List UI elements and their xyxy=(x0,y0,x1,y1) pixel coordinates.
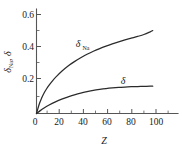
xtick-label-100: 100 xyxy=(149,117,164,127)
chart-figure: 0.6 0.4 0.2 0 20 40 60 80 100 xyxy=(0,0,182,151)
curve-label-delta-na-sub: Na xyxy=(83,45,90,51)
xtick-label-80: 80 xyxy=(126,117,136,127)
y-axis-title-second: , δ xyxy=(2,51,13,61)
y-axis-title: δNa, δ xyxy=(2,51,14,73)
ytick-label-0.4: 0.4 xyxy=(22,42,34,52)
y-axis-title-text: δNa, δ xyxy=(2,51,14,73)
x-axis-title: Z xyxy=(101,135,107,146)
origin-label: 0 xyxy=(33,117,38,127)
xtick-label-60: 60 xyxy=(102,117,112,127)
curve-label-delta-na-main: δ xyxy=(76,38,81,49)
curve-label-delta: δ xyxy=(121,75,126,86)
ytick-label-0.6: 0.6 xyxy=(22,10,34,20)
xtick-label-20: 20 xyxy=(54,117,64,127)
chart-plot-area: 0.6 0.4 0.2 0 20 40 60 80 100 xyxy=(0,0,182,151)
xtick-label-40: 40 xyxy=(78,117,88,127)
ytick-label-0.2: 0.2 xyxy=(22,74,34,84)
